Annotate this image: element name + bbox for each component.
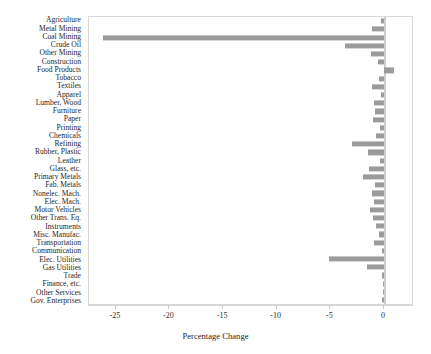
x-tick-mark	[168, 305, 169, 309]
bar-row	[89, 156, 412, 164]
bar[interactable]	[379, 76, 384, 81]
x-tick-label: -15	[217, 311, 228, 320]
category-label: Gov. Enterprises	[0, 297, 84, 305]
category-label: Other Trans. Eq.	[0, 214, 84, 222]
bar[interactable]	[369, 166, 384, 171]
bar[interactable]	[382, 273, 384, 278]
bar-chart: AgricultureMetal MiningCoal MiningCrude …	[0, 0, 431, 354]
bar-row	[89, 288, 412, 296]
bar-row	[89, 263, 412, 271]
bar[interactable]	[381, 92, 384, 97]
bar-row	[89, 83, 412, 91]
bars-layer	[89, 17, 412, 304]
category-label: Other Mining	[0, 49, 84, 57]
bar[interactable]	[371, 51, 384, 56]
x-tick-label: -20	[163, 311, 174, 320]
bar-row	[89, 181, 412, 189]
bar-row	[89, 214, 412, 222]
bar[interactable]	[373, 117, 384, 122]
x-axis-title: Percentage Change	[0, 331, 431, 341]
bar[interactable]	[374, 101, 384, 106]
bar-row	[89, 25, 412, 33]
bar-row	[89, 99, 412, 107]
bar[interactable]	[380, 158, 384, 163]
x-tick-label: -25	[109, 311, 120, 320]
bar[interactable]	[363, 174, 384, 179]
x-tick-mark	[222, 305, 223, 309]
x-tick-mark	[329, 305, 330, 309]
category-label: Fab. Metals	[0, 181, 84, 189]
bar-row	[89, 255, 412, 263]
bar[interactable]	[381, 19, 384, 24]
x-tick-mark	[383, 305, 384, 309]
bar[interactable]	[352, 142, 384, 147]
bar-row	[89, 222, 412, 230]
bar-row	[89, 42, 412, 50]
bar-row	[89, 132, 412, 140]
bar[interactable]	[383, 281, 384, 286]
bar-row	[89, 115, 412, 123]
bar-row	[89, 206, 412, 214]
bar-row	[89, 189, 412, 197]
x-tick-mark	[276, 305, 277, 309]
bar[interactable]	[374, 240, 384, 245]
plot-area	[88, 16, 413, 305]
bar[interactable]	[345, 43, 384, 48]
bar[interactable]	[373, 215, 384, 220]
bar[interactable]	[376, 133, 384, 138]
bar-row	[89, 17, 412, 25]
bar-row	[89, 91, 412, 99]
bar-row	[89, 271, 412, 279]
category-label: Agriculture	[0, 16, 84, 24]
category-label: Rubber, Plastic	[0, 148, 84, 156]
bar-row	[89, 238, 412, 246]
bar-row	[89, 107, 412, 115]
category-label: Communication	[0, 247, 84, 255]
bar-row	[89, 173, 412, 181]
bar[interactable]	[367, 265, 384, 270]
x-axis-line	[88, 305, 413, 306]
bar[interactable]	[378, 60, 384, 65]
bar[interactable]	[368, 150, 384, 155]
bar[interactable]	[329, 256, 384, 261]
bar-row	[89, 165, 412, 173]
bar-row	[89, 280, 412, 288]
bar[interactable]	[375, 183, 384, 188]
bar-row	[89, 66, 412, 74]
bar[interactable]	[376, 224, 384, 229]
bar[interactable]	[372, 27, 384, 32]
bar[interactable]	[103, 35, 384, 40]
bar[interactable]	[372, 191, 384, 196]
bar-row	[89, 148, 412, 156]
x-tick-label: -5	[326, 311, 333, 320]
bar[interactable]	[383, 289, 384, 294]
bar[interactable]	[380, 125, 384, 130]
bar[interactable]	[375, 109, 384, 114]
bar[interactable]	[382, 297, 384, 302]
bar[interactable]	[374, 199, 384, 204]
category-label: Textiles	[0, 82, 84, 90]
bar-row	[89, 197, 412, 205]
x-tick-mark	[115, 305, 116, 309]
bar-row	[89, 74, 412, 82]
bar-row	[89, 33, 412, 41]
category-label: Finance, etc.	[0, 280, 84, 288]
bar[interactable]	[379, 232, 384, 237]
bar[interactable]	[372, 84, 384, 89]
bar-row	[89, 140, 412, 148]
x-tick-label: 0	[381, 311, 385, 320]
bar-row	[89, 58, 412, 66]
category-label: Paper	[0, 115, 84, 123]
bar[interactable]	[382, 248, 384, 253]
bar-row	[89, 296, 412, 304]
x-tick-label: -10	[270, 311, 281, 320]
bar-row	[89, 247, 412, 255]
bar-row	[89, 230, 412, 238]
bar-row	[89, 124, 412, 132]
category-axis-labels: AgricultureMetal MiningCoal MiningCrude …	[0, 16, 84, 305]
bar[interactable]	[384, 68, 394, 73]
bar[interactable]	[370, 207, 384, 212]
bar-row	[89, 50, 412, 58]
